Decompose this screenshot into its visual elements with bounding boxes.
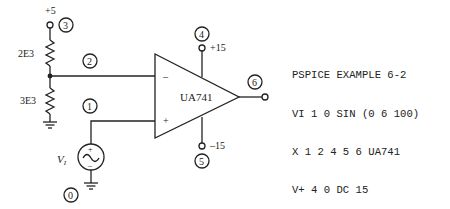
resistor-r2 (46, 88, 54, 114)
output-terminal-6 (262, 94, 268, 100)
node-label-5: 5 (199, 156, 204, 167)
source-plus: + (88, 145, 93, 154)
node-label-2: 2 (87, 56, 92, 67)
opamp-plus: + (163, 115, 169, 126)
terminal-pin-4 (199, 45, 205, 51)
netlist-line: VI 1 0 SIN (0 6 100) (292, 108, 419, 121)
source-minus: – (87, 161, 93, 170)
node-label-4: 4 (199, 29, 204, 40)
terminal-pin-5 (199, 143, 205, 149)
netlist-line: PSPICE EXAMPLE 6-2 (292, 69, 419, 82)
ground-icon (84, 183, 98, 189)
netlist-line: X 1 2 4 5 6 UA741 (292, 146, 419, 159)
spice-netlist: PSPICE EXAMPLE 6-2 VI 1 0 SIN (0 6 100) … (292, 44, 419, 209)
source-label: VI (57, 153, 67, 167)
supply-terminal-3 (47, 22, 53, 28)
node-label-1: 1 (87, 101, 92, 112)
vminus-label: –15 (209, 140, 225, 151)
ground-icon (43, 122, 57, 128)
r2-label: 3E3 (20, 95, 36, 106)
node-label-3: 3 (63, 20, 68, 31)
node-label-0: 0 (68, 190, 73, 201)
opamp-label: UA741 (180, 91, 212, 103)
resistor-r1 (46, 40, 54, 66)
opamp-minus: – (162, 71, 169, 82)
node-label-6: 6 (252, 77, 257, 88)
circuit-figure: +5 2E3 3E3 UA741 – + +15 –15 VI + – 3 2 … (0, 0, 450, 209)
supply-label: +5 (45, 5, 56, 16)
r1-label: 2E3 (18, 48, 34, 59)
vplus-label: +15 (210, 42, 226, 53)
wire-noninverting-input (91, 121, 155, 144)
netlist-line: V+ 4 0 DC 15 (292, 184, 419, 197)
